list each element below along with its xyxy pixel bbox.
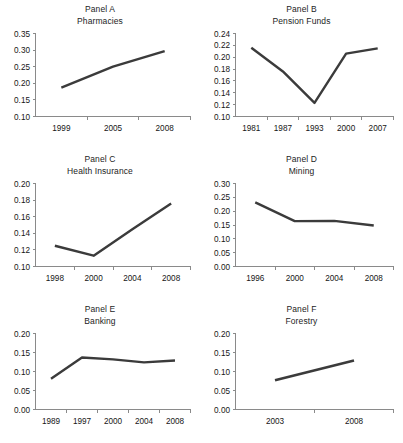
y-axis-tick-label: 0.15 — [14, 96, 30, 105]
y-axis-tick-label: 0.30 — [214, 180, 230, 189]
y-axis-tick-label: 0.22 — [214, 41, 230, 50]
y-axis-tick-label: 0.20 — [14, 79, 30, 88]
y-axis-tick-label: 0.20 — [214, 207, 230, 216]
x-axis-tick-label: 1997 — [73, 417, 92, 426]
x-axis-tick-label: 2004 — [135, 417, 154, 426]
x-axis-tick-label: 2000 — [104, 417, 123, 426]
panel-a-plot: 0.100.150.200.250.300.35199920052008 — [0, 0, 200, 150]
y-axis-tick-label: 0.15 — [14, 349, 30, 358]
y-axis-tick-label: 0.00 — [14, 406, 30, 415]
panel-c: Panel C Health Insurance 0.100.120.140.1… — [0, 150, 200, 300]
y-axis-tick-label: 0.25 — [14, 63, 30, 72]
y-axis-tick-label: 0.05 — [14, 387, 30, 396]
y-axis-tick-label: 0.10 — [14, 263, 30, 272]
x-axis-tick-label: 2000 — [85, 274, 104, 283]
y-axis-tick-label: 0.20 — [214, 53, 230, 62]
data-series-line — [55, 203, 171, 255]
y-axis-tick-label: 0.20 — [14, 330, 30, 339]
x-axis-tick-label: 2003 — [266, 417, 285, 426]
y-axis-tick-label: 0.14 — [14, 229, 30, 238]
x-axis-tick-label: 1996 — [246, 274, 265, 283]
y-axis-tick-label: 0.20 — [14, 180, 30, 189]
y-axis-tick-label: 0.00 — [214, 406, 230, 415]
panel-a: Panel A Pharmacies 0.100.150.200.250.300… — [0, 0, 200, 150]
y-axis-tick-label: 0.15 — [214, 349, 230, 358]
x-axis-tick-label: 1999 — [52, 124, 71, 133]
data-series-line — [61, 51, 164, 88]
panel-e-plot: 0.000.050.100.150.2019891997200020042008 — [0, 300, 200, 443]
y-axis-tick-label: 0.35 — [14, 30, 30, 39]
y-axis-tick-label: 0.20 — [214, 330, 230, 339]
panel-e: Panel E Banking 0.000.050.100.150.201989… — [0, 300, 200, 443]
y-axis-tick-label: 0.05 — [214, 387, 230, 396]
y-axis-tick-label: 0.12 — [14, 246, 30, 255]
y-axis-tick-label: 0.18 — [14, 196, 30, 205]
data-series-line — [251, 48, 377, 103]
multi-panel-line-chart-figure: Panel A Pharmacies 0.100.150.200.250.300… — [0, 0, 403, 443]
y-axis-tick-label: 0.25 — [214, 193, 230, 202]
y-axis-tick-label: 0.18 — [214, 65, 230, 74]
y-axis-tick-label: 0.16 — [214, 77, 230, 86]
panel-d: Panel D Mining 0.000.050.100.150.200.250… — [200, 150, 403, 300]
x-axis-tick-label: 2005 — [104, 124, 123, 133]
y-axis-tick-label: 0.10 — [14, 113, 30, 122]
data-series-line — [275, 360, 354, 380]
x-axis-tick-label: 2000 — [286, 274, 305, 283]
x-axis-tick-label: 2008 — [345, 417, 364, 426]
y-axis-tick-label: 0.10 — [14, 368, 30, 377]
x-axis-tick-label: 1981 — [242, 124, 261, 133]
data-series-line — [51, 357, 175, 378]
y-axis-tick-label: 0.24 — [214, 30, 230, 39]
y-axis-tick-label: 0.10 — [214, 235, 230, 244]
x-axis-tick-label: 2004 — [325, 274, 344, 283]
panel-f: Panel F Forestry 0.000.050.100.150.20200… — [200, 300, 403, 443]
x-axis-tick-label: 2008 — [156, 124, 175, 133]
panel-b-plot: 0.100.120.140.160.180.200.220.2419811987… — [200, 0, 403, 150]
y-axis-tick-label: 0.12 — [214, 101, 230, 110]
x-axis-tick-label: 2000 — [337, 124, 356, 133]
panel-d-plot: 0.000.050.100.150.200.250.30199620002004… — [200, 150, 403, 300]
x-axis-tick-label: 1998 — [46, 274, 65, 283]
x-axis-tick-label: 2008 — [166, 417, 185, 426]
y-axis-tick-label: 0.10 — [214, 368, 230, 377]
panel-b: Panel B Pension Funds 0.100.120.140.160.… — [200, 0, 403, 150]
y-axis-tick-label: 0.30 — [14, 46, 30, 55]
y-axis-tick-label: 0.14 — [214, 89, 230, 98]
x-axis-tick-label: 1987 — [274, 124, 293, 133]
y-axis-tick-label: 0.10 — [214, 113, 230, 122]
x-axis-tick-label: 2004 — [123, 274, 142, 283]
y-axis-tick-label: 0.00 — [214, 263, 230, 272]
x-axis-tick-label: 2007 — [369, 124, 388, 133]
x-axis-tick-label: 1989 — [42, 417, 61, 426]
y-axis-tick-label: 0.05 — [214, 249, 230, 258]
y-axis-tick-label: 0.15 — [214, 221, 230, 230]
x-axis-tick-label: 1993 — [305, 124, 324, 133]
x-axis-tick-label: 2008 — [162, 274, 181, 283]
panel-c-plot: 0.100.120.140.160.180.201998200020042008 — [0, 150, 200, 300]
panel-f-plot: 0.000.050.100.150.2020032008 — [200, 300, 403, 443]
y-axis-tick-label: 0.16 — [14, 213, 30, 222]
x-axis-tick-label: 2008 — [365, 274, 384, 283]
data-series-line — [255, 202, 374, 225]
